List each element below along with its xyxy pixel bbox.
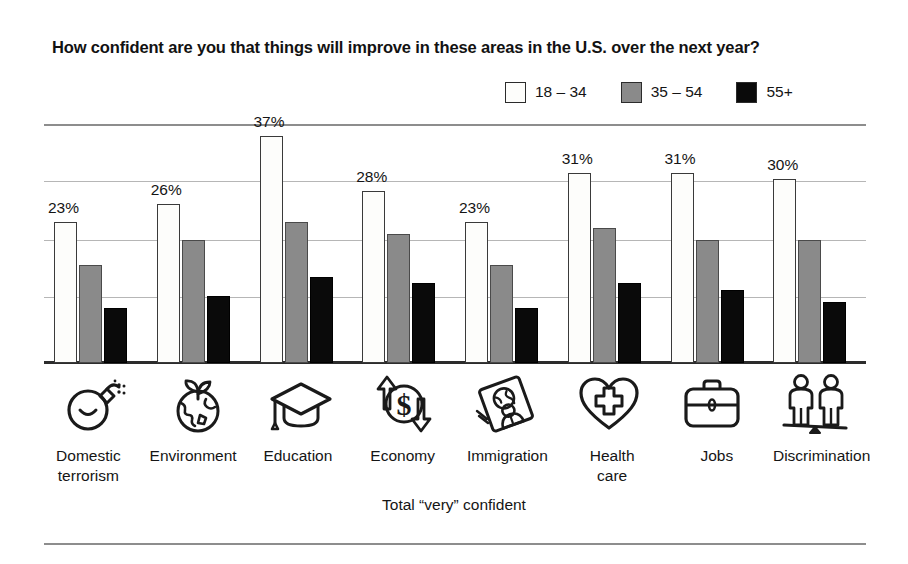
legend-item-35-54: 35 – 54 [621,82,703,103]
bar [182,240,205,363]
bar [310,277,333,363]
bar [618,283,641,363]
briefcase-icon [661,366,764,442]
two-people-seesaw-icon [763,366,866,442]
category-label: Discrimination [769,446,874,492]
bar-group-bars [455,124,558,363]
legend-label-35-54: 35 – 54 [651,83,703,101]
category-icons-row: $ [44,366,866,442]
category-label: Jobs [665,446,770,492]
bar-value-label: 23% [48,199,79,217]
bar-groups: 23%26%37%28%23%31%31%30% [44,124,866,363]
bar [387,234,410,363]
bar [207,296,230,363]
page-title: How confident are you that things will i… [52,38,882,57]
category-label: Education [246,446,351,492]
legend-item-55-plus: 55+ [736,82,792,103]
bar-value-label: 26% [151,181,182,199]
bar-value-label: 30% [767,156,798,174]
legend-label-18-34: 18 – 34 [535,83,587,101]
bar [823,302,846,363]
bar [54,222,77,363]
bar-group: 31% [558,124,661,363]
category-label: Economy [350,446,455,492]
chart-footnote: Total “very” confident [0,496,908,514]
bar-group: 23% [44,124,147,363]
bar-group: 26% [147,124,250,363]
bar [798,240,821,363]
bar-group: 28% [352,124,455,363]
bar [490,265,513,363]
chart-legend: 18 – 34 35 – 54 55+ [505,80,793,104]
bar-group-bars [352,124,455,363]
dollar-cycle-icon: $ [352,366,455,442]
bar-group: 31% [661,124,764,363]
legend-swatch-35-54 [621,82,642,103]
bar [773,179,796,363]
passport-person-globe-icon [455,366,558,442]
bar-group-bars [44,124,147,363]
bottom-rule [44,543,866,545]
chart-plot-area: 23%26%37%28%23%31%31%30% [44,124,866,364]
legend-swatch-18-34 [505,82,526,103]
bar [260,136,283,363]
bar [696,240,719,363]
bar [515,308,538,363]
bar [412,283,435,363]
bar [671,173,694,363]
bar-group-bars [250,124,353,363]
graduation-cap-icon [250,366,353,442]
bar [79,265,102,363]
globe-plant-icon [147,366,250,442]
category-label: Immigration [455,446,560,492]
bar [593,228,616,363]
bar-value-label: 37% [254,113,285,131]
legend-label-55-plus: 55+ [766,83,792,101]
bar [285,222,308,363]
category-label: Environment [141,446,246,492]
bar-group: 23% [455,124,558,363]
heart-cross-icon [558,366,661,442]
bar [104,308,127,363]
category-labels-row: DomesticterrorismEnvironmentEducationEco… [36,446,874,492]
category-label: Domesticterrorism [36,446,141,492]
bar-value-label: 23% [459,199,490,217]
bar-group-bars [147,124,250,363]
bar [362,191,385,363]
category-label: Healthcare [560,446,665,492]
bar [721,290,744,364]
chart-page: How confident are you that things will i… [0,0,908,564]
bar-group: 30% [763,124,866,363]
bar [568,173,591,363]
bar-value-label: 31% [562,150,593,168]
bar [157,204,180,363]
legend-item-18-34: 18 – 34 [505,82,587,103]
bar-group: 37% [250,124,353,363]
bomb-icon [44,366,147,442]
legend-swatch-55-plus [736,82,757,103]
svg-text:$: $ [396,388,411,421]
bar-value-label: 31% [665,150,696,168]
bar-value-label: 28% [356,168,387,186]
bar [465,222,488,363]
